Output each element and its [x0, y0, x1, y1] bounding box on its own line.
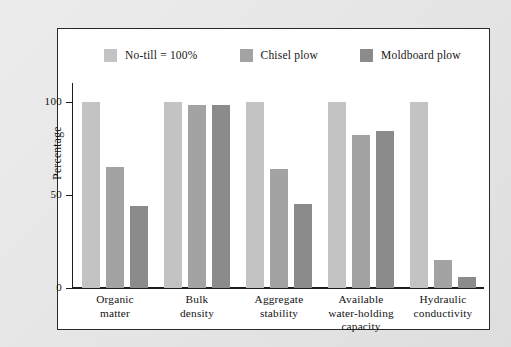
- bar: [458, 277, 476, 288]
- bar-group: [402, 83, 484, 288]
- x-axis-category-label-line: Aggregate: [238, 293, 320, 307]
- x-axis-category-label-line: Bulk: [156, 293, 238, 307]
- x-axis-category-label: Availablewater-holdingcapacity: [320, 293, 402, 334]
- bar: [106, 167, 124, 288]
- bar: [352, 135, 370, 288]
- bar: [270, 169, 288, 288]
- y-axis-tick-0: 0: [66, 288, 73, 289]
- y-axis-tick-label-100: 100: [45, 95, 62, 107]
- figure-container: No-till = 100% Chisel plow Moldboard plo…: [0, 0, 511, 347]
- x-axis-category-label-line: matter: [74, 307, 156, 321]
- x-axis-category-label: Hydraulicconductivity: [402, 293, 484, 334]
- y-axis-tick-100: 100: [66, 102, 73, 103]
- bar-group: [156, 83, 238, 288]
- y-axis-title: Percentage: [51, 126, 63, 179]
- bar: [376, 131, 394, 288]
- bar-group: [74, 83, 156, 288]
- axis-area: 100500 Percentage OrganicmatterBulkdensi…: [58, 29, 491, 331]
- bar: [294, 204, 312, 288]
- x-axis-category-label-line: stability: [238, 307, 320, 321]
- bar: [82, 102, 100, 288]
- y-axis-tick-50: 50: [66, 195, 73, 196]
- y-axis-tick-label-50: 50: [50, 188, 62, 200]
- x-axis-category-label-line: capacity: [320, 320, 402, 334]
- x-axis-category-label-line: conductivity: [402, 307, 484, 321]
- bar: [434, 260, 452, 288]
- x-axis-category-label-line: Available: [320, 293, 402, 307]
- bar: [130, 206, 148, 288]
- x-axis-category-label: Aggregatestability: [238, 293, 320, 334]
- bar: [188, 105, 206, 288]
- bar-groups: [74, 83, 484, 288]
- bar-group: [238, 83, 320, 288]
- bar: [212, 105, 230, 288]
- x-axis-category-label: Bulkdensity: [156, 293, 238, 334]
- bar: [328, 102, 346, 288]
- x-axis-category-label: Organicmatter: [74, 293, 156, 334]
- plot-frame: No-till = 100% Chisel plow Moldboard plo…: [57, 28, 490, 330]
- x-axis-category-label-line: Hydraulic: [402, 293, 484, 307]
- bar: [164, 102, 182, 288]
- bar-group: [320, 83, 402, 288]
- x-axis-category-labels: OrganicmatterBulkdensityAggregatestabili…: [74, 293, 484, 334]
- y-axis-tick-label-0: 0: [56, 281, 62, 293]
- x-axis-category-label-line: Organic: [74, 293, 156, 307]
- bar: [246, 102, 264, 288]
- bar: [410, 102, 428, 288]
- x-axis-category-label-line: density: [156, 307, 238, 321]
- x-axis-category-label-line: water-holding: [320, 307, 402, 321]
